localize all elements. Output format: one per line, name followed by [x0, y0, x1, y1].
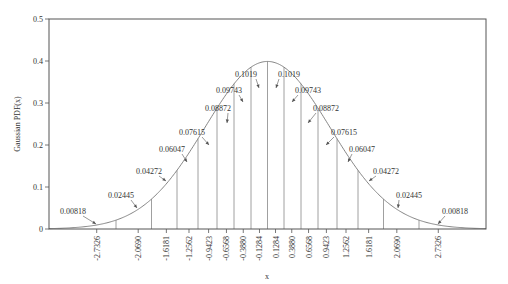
probability-annotations: 0.008180.024450.042720.060470.076150.088… — [60, 70, 468, 224]
annotation-label: 0.07615 — [331, 128, 357, 137]
x-tick-label: 1.6181 — [365, 236, 374, 258]
x-tick-label: -1.6181 — [162, 236, 171, 261]
annotation-label: 0.09743 — [295, 86, 321, 95]
x-tick-label: 0.6568 — [305, 236, 314, 258]
y-tick-label: 0.3 — [33, 99, 43, 108]
arrow-head-icon — [134, 204, 137, 208]
probability-annotation: 0.07615 — [179, 128, 209, 145]
annotation-label: 0.06047 — [159, 145, 185, 154]
probability-annotation: 0.04272 — [136, 167, 166, 181]
x-tick-label: -2.0690 — [134, 236, 143, 261]
probability-annotation: 0.06047 — [159, 145, 187, 162]
probability-annotation: 0.04272 — [369, 167, 399, 181]
annotation-label: 0.00818 — [60, 207, 86, 216]
arrow-head-icon — [369, 178, 373, 181]
x-tick-label: 1.2562 — [342, 236, 351, 258]
probability-annotation: 0.08872 — [308, 104, 339, 123]
annotation-label: 0.08872 — [205, 104, 231, 113]
probability-annotation: 0.02445 — [108, 191, 137, 208]
annotation-label: 0.06047 — [349, 145, 375, 154]
annotation-label: 0.08872 — [313, 104, 339, 113]
y-axis-title: Gaussian PDF(x) — [13, 96, 22, 152]
arrow-head-icon — [92, 221, 96, 224]
x-tick-label: 0.3880 — [288, 236, 297, 258]
x-axis-title: x — [265, 272, 269, 281]
y-axis: 00.10.20.30.40.5 — [33, 15, 49, 234]
x-axis: -2.7326-2.0690-1.6181-1.2562-0.9423-0.65… — [93, 229, 444, 261]
probability-annotation: 0.02445 — [396, 191, 422, 208]
x-tick-label: -0.9423 — [205, 236, 214, 261]
annotation-label: 0.02445 — [108, 191, 134, 200]
x-tick-label: -0.3880 — [239, 236, 248, 261]
annotation-label: 0.1019 — [278, 70, 300, 79]
x-tick-label: -2.7326 — [93, 236, 102, 261]
y-tick-label: 0 — [39, 225, 43, 234]
probability-annotation: 0.08872 — [205, 104, 231, 123]
arrow-head-icon — [397, 204, 400, 208]
arrow-head-icon — [256, 84, 259, 88]
x-tick-label: -0.1284 — [255, 236, 264, 261]
annotation-label: 0.00818 — [442, 207, 468, 216]
probability-annotation: 0.07615 — [326, 128, 357, 145]
arrow-head-icon — [276, 84, 279, 88]
annotation-label: 0.04272 — [373, 167, 399, 176]
y-tick-label: 0.1 — [33, 183, 43, 192]
y-tick-label: 0.4 — [33, 57, 43, 66]
x-tick-label: 0.1284 — [272, 236, 281, 258]
arrow-head-icon — [162, 178, 166, 181]
annotation-label: 0.04272 — [136, 167, 162, 176]
x-tick-label: -1.2562 — [185, 236, 194, 261]
y-tick-label: 0.5 — [33, 15, 43, 24]
probability-annotation: 0.09743 — [292, 86, 321, 102]
annotation-label: 0.09743 — [216, 86, 242, 95]
x-tick-label: -0.6568 — [222, 236, 231, 261]
x-tick-label: 2.0690 — [393, 236, 402, 258]
annotation-label: 0.02445 — [396, 191, 422, 200]
gaussian-pdf-chart: 00.10.20.30.40.5 -2.7326-2.0690-1.6181-1… — [0, 0, 508, 284]
annotation-label: 0.07615 — [179, 128, 205, 137]
probability-annotation: 0.06047 — [348, 145, 375, 162]
y-tick-label: 0.2 — [33, 141, 43, 150]
probability-annotation: 0.00818 — [438, 207, 468, 224]
probability-annotation: 0.09743 — [216, 86, 243, 102]
x-tick-label: 0.9423 — [322, 236, 331, 258]
annotation-label: 0.1019 — [235, 70, 257, 79]
x-tick-label: 2.7326 — [434, 236, 443, 258]
probability-annotation: 0.00818 — [60, 207, 96, 224]
